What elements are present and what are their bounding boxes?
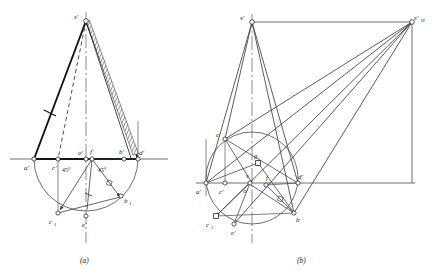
label-apex-a: s' <box>74 13 79 21</box>
label-d-b: d' <box>298 173 304 181</box>
label-b-b: b <box>296 216 300 224</box>
label-e-b: e' <box>231 229 236 237</box>
node-apex-b <box>250 20 255 25</box>
ray-h-to-c-b <box>225 22 412 139</box>
label-b-a: b' <box>119 148 125 156</box>
edge-apex-a-b <box>206 22 252 183</box>
label-o-a: o' <box>78 149 84 157</box>
node-f-b <box>264 183 268 187</box>
chord-o-to-b-b <box>248 183 294 213</box>
label-c-base-b: c' <box>219 188 224 196</box>
node-o-b <box>248 181 252 185</box>
label-c1-b: c <box>206 221 210 229</box>
figure-canvas: s' a' c' o' f' b' d' 45° 45° c 1 e' b 1 … <box>0 0 434 277</box>
hatch-band-a <box>86 21 139 156</box>
node-c1-b <box>214 214 219 219</box>
label-b1-sub-a: 1 <box>129 201 132 206</box>
node-c-base-b <box>223 181 227 185</box>
label-b1-a: b <box>124 197 128 205</box>
node-a-a <box>32 157 36 161</box>
inner-right-slant-a <box>86 21 131 158</box>
node-b-b <box>292 211 296 215</box>
dashed-generator-a <box>58 21 86 159</box>
label-c1-a: c <box>49 218 53 226</box>
label-c-a: c' <box>52 164 57 172</box>
ray-f-to-e-a <box>87 159 92 210</box>
label-f-a: f' <box>90 148 94 156</box>
label-o-b: o' <box>243 187 249 195</box>
chord-f-to-b-b <box>266 185 294 213</box>
label-s-small-b: s <box>246 172 249 180</box>
label-a-b: a' <box>196 188 202 196</box>
label-apex-h-b: s' <box>414 14 419 22</box>
label-apex-b: s' <box>240 14 245 22</box>
node-d-b <box>296 181 300 185</box>
chord-c1-to-b-b <box>216 213 294 216</box>
node-apex-a <box>84 19 89 24</box>
node-e-b <box>232 222 236 226</box>
caption-b: (b) <box>297 256 306 265</box>
node-a-b <box>204 181 208 185</box>
label-a-a: a' <box>24 164 30 172</box>
node-c1-a <box>56 211 60 215</box>
label-c1-sub-a: 1 <box>54 222 57 227</box>
ray-h-to-b-b <box>294 22 412 213</box>
panel-a-geometry <box>10 12 168 243</box>
label-g-b: g <box>254 152 258 160</box>
node-f-a <box>90 157 94 161</box>
edge-apex-c-b <box>225 22 252 139</box>
ray-f-to-b1-a <box>92 159 120 197</box>
label-apex-h-sub-b: H <box>420 18 425 23</box>
label-e-a: e' <box>82 221 87 229</box>
node-d-a <box>136 157 140 161</box>
caption-a: (a) <box>80 256 89 265</box>
label-angle-right-a: 45° <box>98 167 107 173</box>
node-o-a <box>84 157 88 161</box>
node-e-a <box>84 214 88 218</box>
label-c1-sub-b: 1 <box>211 225 214 230</box>
node-c-top-b <box>223 137 227 141</box>
node-g-b <box>256 161 261 166</box>
panel-b-geometry <box>196 14 415 243</box>
panel-b-labels: s' s' H a' c c' s o' g f d' b c 1 e' (b) <box>196 14 425 265</box>
label-angle-left-a: 45° <box>62 167 71 173</box>
label-d-a: d' <box>139 149 145 157</box>
drawing-svg: s' a' c' o' f' b' d' 45° 45° c 1 e' b 1 … <box>0 0 434 277</box>
node-b-a <box>122 157 126 161</box>
node-c-a <box>56 157 60 161</box>
node-b1-a <box>119 194 123 198</box>
